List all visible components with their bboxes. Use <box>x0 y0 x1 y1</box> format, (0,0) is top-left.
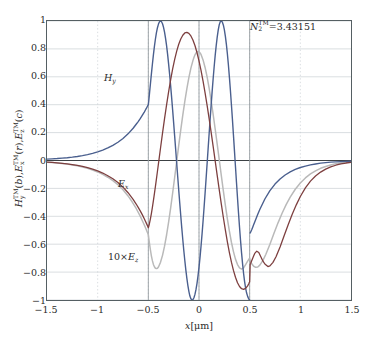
curve-10xEz <box>47 52 351 269</box>
curve-Ex <box>47 32 351 289</box>
x-tick-label: 0 <box>176 305 222 315</box>
x-tick-label: −1 <box>74 305 120 315</box>
x-tick-label: −0.5 <box>125 305 171 315</box>
x-tick-label: 0.5 <box>227 305 273 315</box>
effective-index-annotation: NTM2=3.43151 <box>250 20 316 33</box>
x-tick-label: 1.5 <box>329 305 367 315</box>
plot-area <box>46 20 352 301</box>
y-tick-label: 1 <box>6 15 46 25</box>
y-axis-label: HTMy(b),ETMx(r),ETMz(c) <box>13 43 26 273</box>
x-axis-label: x[μm] <box>46 320 352 331</box>
data-curves <box>47 21 351 300</box>
curve-label-ez: 10×Ez <box>108 251 138 263</box>
curve-label-ex: Ex <box>118 178 128 190</box>
x-tick-label: −1.5 <box>23 305 69 315</box>
figure-container: 10.80.60.40.20−0.2−0.4−0.6−0.8−1 −1.5−1−… <box>0 0 367 342</box>
curve-label-hy: Hy <box>104 72 116 84</box>
x-tick-label: 1 <box>278 305 324 315</box>
